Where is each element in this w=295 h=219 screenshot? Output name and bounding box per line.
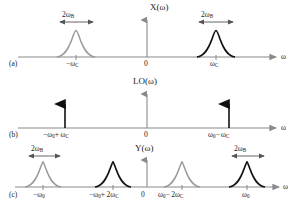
panel-c-axis-variable-label: ω — [283, 183, 288, 191]
panel-b-axis-variable-label: ω — [281, 124, 286, 132]
panel-c-plot — [15, 156, 279, 190]
panel-a-bump-wc — [197, 31, 235, 58]
panel-c-tick-label-w0: ω0 — [242, 191, 249, 199]
panel-c-tick-label-negw0-2wc: −ω0+ 2ωC — [89, 191, 119, 199]
panel-a-bump-negwc — [57, 31, 95, 58]
panel-a-axis-title: X(ω) — [150, 3, 168, 12]
panel-c-bump-negw0-2wc — [95, 162, 131, 188]
panel-a-tick-label-wc: ωC — [210, 60, 218, 68]
panel-c-tick-label-w0-2wc: ω0− 2ωC — [158, 191, 183, 199]
panel-c-bump-w0-2wc — [164, 162, 200, 188]
panel-b-tick-label-origin: 0 — [144, 131, 148, 139]
panel-c-span-label-left: 2ωB — [31, 145, 43, 153]
panel-a-tick-label-negwc: −ωC — [66, 60, 79, 68]
panel-b-axis-title: LO(ω) — [133, 77, 157, 86]
panel-c-tick-label-origin: 0 — [141, 191, 145, 199]
panel-a-span-label-left: 2ωB — [62, 11, 74, 19]
panel-a-tick-label-origin: 0 — [144, 60, 148, 68]
panel-c-span-label-right: 2ωB — [234, 145, 246, 153]
panel-b-id: (b) — [9, 131, 18, 139]
panel-a-plot — [18, 20, 276, 60]
panel-b-plot — [18, 94, 276, 128]
panel-c-axis-title: Y(ω) — [135, 144, 153, 153]
panel-a-axis-variable-label: ω — [281, 53, 286, 61]
panel-c-tick-label-negw0: −ω0 — [33, 191, 45, 199]
panel-a-id: (a) — [9, 60, 17, 68]
panel-b-tick-label-left: −ω0+ ωC — [43, 131, 69, 139]
panel-c-bump-w0 — [229, 162, 265, 188]
figure-container: X(ω) 2ωB 2ωB −ωC 0 ωC ω (a) LO(ω) −ω0+ ω… — [0, 0, 295, 219]
panel-c-id: (c) — [9, 191, 17, 199]
figure-canvas — [0, 0, 295, 219]
panel-a-span-label-right: 2ωB — [201, 11, 213, 19]
panel-b-tick-label-right: ω0 − ωC — [208, 131, 229, 139]
panel-c-bump-negw0 — [25, 162, 61, 188]
